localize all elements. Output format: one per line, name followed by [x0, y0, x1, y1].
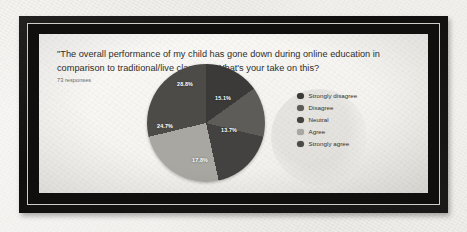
survey-result-card: "The overall performance of my child has… — [39, 34, 428, 193]
legend-item[interactable]: Strongly agree — [297, 140, 357, 148]
pie-slice-label-0: 15.1% — [215, 95, 231, 101]
pie-slice-label-4: 28.8% — [177, 81, 193, 87]
legend-swatch-icon — [297, 93, 304, 100]
legend-item[interactable]: Strongly disagree — [297, 92, 357, 100]
pie-slice-label-2: 17.8% — [192, 157, 208, 163]
legend-swatch-icon — [297, 129, 304, 136]
legend-item-label: Neutral — [309, 116, 329, 124]
screenshot-root: "The overall performance of my child has… — [0, 0, 467, 232]
chart-legend: Strongly disagreeDisagreeNeutralAgreeStr… — [297, 92, 357, 148]
pie-slice-label-1: 13.7% — [221, 127, 237, 133]
legend-item[interactable]: Disagree — [297, 104, 357, 112]
picture-frame: "The overall performance of my child has… — [19, 16, 448, 213]
frame-inner-bevel: "The overall performance of my child has… — [27, 23, 440, 205]
legend-swatch-icon — [297, 105, 304, 112]
legend-swatch-icon — [297, 117, 304, 124]
legend-item-label: Disagree — [309, 104, 334, 112]
response-count: 73 responses — [57, 76, 91, 84]
legend-item[interactable]: Neutral — [297, 116, 357, 124]
legend-swatch-icon — [297, 141, 304, 148]
legend-item-label: Strongly agree — [309, 140, 350, 148]
legend-item-label: Strongly disagree — [309, 92, 358, 100]
pie-chart: 15.1%13.7%17.8%24.7%28.8% — [147, 64, 265, 182]
legend-item[interactable]: Agree — [297, 128, 357, 136]
pie-slice-label-3: 24.7% — [157, 123, 173, 129]
legend-item-label: Agree — [309, 128, 326, 136]
